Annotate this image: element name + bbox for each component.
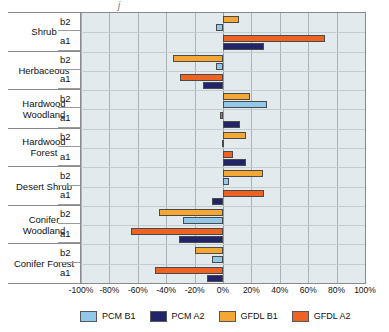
artifact-mark: j <box>118 0 120 11</box>
bar <box>155 267 223 274</box>
row-separator <box>81 206 365 207</box>
x-axis-tick-label: 60% <box>300 285 317 295</box>
subgroup-label-text: b2 <box>60 54 71 65</box>
row-separator <box>81 167 365 168</box>
legend-label: GFDL A2 <box>314 311 351 321</box>
plot-area <box>80 12 366 284</box>
bar <box>180 74 223 81</box>
chart-legend: PCM B1PCM A2GFDL B1GFDL A2 <box>80 308 370 324</box>
bar <box>223 190 264 197</box>
bar <box>223 16 239 23</box>
row-separator <box>81 225 365 226</box>
legend-item[interactable]: GFDL A2 <box>292 311 351 322</box>
subgroup-label-text: b2 <box>60 16 71 27</box>
bar <box>203 82 223 89</box>
bar <box>220 112 223 119</box>
subgroup-label: b2 <box>58 166 80 185</box>
subgroup-label-text: b2 <box>60 170 71 181</box>
legend-label: PCM B1 <box>102 311 136 321</box>
legend-swatch-icon <box>80 311 97 322</box>
legend-label: GFDL B1 <box>241 311 278 321</box>
x-axis-tick-label: 0% <box>217 285 229 295</box>
subgroup-label-text: b2 <box>60 247 71 258</box>
row-separator <box>81 187 365 188</box>
subgroup-label: a1 <box>58 70 80 89</box>
subgroup-label: b2 <box>58 128 80 147</box>
subgroup-label: a1 <box>58 263 80 282</box>
bar <box>183 217 223 224</box>
bar <box>216 24 223 31</box>
row-separator <box>81 148 365 149</box>
bar <box>173 55 223 62</box>
legend-swatch-icon <box>150 311 167 322</box>
bar <box>159 209 223 216</box>
bar <box>195 247 223 254</box>
row-separator <box>81 52 365 53</box>
row-separator <box>81 244 365 245</box>
category-label-text: Shrub <box>31 26 56 37</box>
subgroup-label-text: a1 <box>60 112 71 123</box>
bar <box>223 151 233 158</box>
subgroup-label-text: b2 <box>60 208 71 219</box>
row-separator <box>81 71 365 72</box>
x-axis-tick-label: 20% <box>243 285 260 295</box>
bar <box>223 101 267 108</box>
bar <box>223 93 250 100</box>
bar <box>223 121 240 128</box>
legend-swatch-icon <box>219 311 236 322</box>
gridline <box>365 13 366 283</box>
row-separator <box>81 109 365 110</box>
subgroup-label-text: a1 <box>60 73 71 84</box>
row-separator <box>81 264 365 265</box>
bar <box>223 132 246 139</box>
bar <box>222 140 224 147</box>
legend-swatch-icon <box>292 311 309 322</box>
x-axis-tick-label: -60% <box>128 285 148 295</box>
subgroup-label-text: a1 <box>60 267 71 278</box>
bar <box>223 159 246 166</box>
x-axis-tick-label: -80% <box>99 285 119 295</box>
subgroup-label: b2 <box>58 12 80 31</box>
legend-item[interactable]: GFDL B1 <box>219 311 278 322</box>
x-axis: -100%-80%-60%-40%-20%0%20%40%60%80%100% <box>80 285 366 301</box>
subgroup-label: b2 <box>58 51 80 70</box>
grouped-bar-chart: j ShrubHerbaceousHardwood WoodlandHardwo… <box>0 0 389 332</box>
subgroup-label-text: a1 <box>60 35 71 46</box>
x-axis-tick-label: -100% <box>69 285 94 295</box>
row-separator <box>81 129 365 130</box>
subgroup-label: a1 <box>58 224 80 243</box>
legend-item[interactable]: PCM B1 <box>80 311 136 322</box>
subgroup-label: b2 <box>58 205 80 224</box>
subgroup-label-text: b2 <box>60 131 71 142</box>
subgroup-label: a1 <box>58 186 80 205</box>
subgroup-label: a1 <box>58 31 80 50</box>
bar <box>212 198 223 205</box>
x-axis-tick-label: -40% <box>156 285 176 295</box>
x-axis-tick-label: -20% <box>185 285 205 295</box>
bar <box>216 63 223 70</box>
x-axis-tick-label: 80% <box>328 285 345 295</box>
subgroup-label-column: b2a1b2a1b2a1b2a1b2a1b2a1b2a1 <box>58 12 80 284</box>
row-separator <box>81 32 365 33</box>
bar <box>223 178 229 185</box>
subgroup-label: a1 <box>58 108 80 127</box>
subgroup-label-text: a1 <box>60 151 71 162</box>
x-axis-tick-label: 100% <box>354 285 376 295</box>
subgroup-label-text: a1 <box>60 228 71 239</box>
subgroup-label: b2 <box>58 89 80 108</box>
bar <box>207 275 223 282</box>
subgroup-label-text: a1 <box>60 189 71 200</box>
subgroup-label: b2 <box>58 243 80 262</box>
subgroup-label: a1 <box>58 147 80 166</box>
legend-item[interactable]: PCM A2 <box>150 311 205 322</box>
bar <box>212 256 223 263</box>
bar <box>223 43 264 50</box>
bar <box>223 35 325 42</box>
bar <box>223 170 263 177</box>
bar <box>179 236 223 243</box>
bar <box>131 228 223 235</box>
row-separator <box>81 90 365 91</box>
legend-label: PCM A2 <box>172 311 205 321</box>
subgroup-label-text: b2 <box>60 93 71 104</box>
x-axis-tick-label: 40% <box>271 285 288 295</box>
